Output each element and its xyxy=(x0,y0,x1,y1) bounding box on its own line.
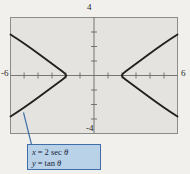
equation-line-y: y=tan θ xyxy=(32,158,97,169)
parametric-equations-callout: x=2 sec θ y=tan θ xyxy=(27,144,101,170)
equation-y-theta: θ xyxy=(57,158,61,168)
y-axis-min-label: -4 xyxy=(86,124,94,133)
equation-x-equals: = xyxy=(36,147,45,157)
x-axis-max-label: 6 xyxy=(181,69,186,78)
equation-y-function: tan xyxy=(45,158,55,168)
equation-x-coefficient: 2 xyxy=(45,147,49,157)
x-axis-min-label: -6 xyxy=(1,69,9,78)
equation-x-theta: θ xyxy=(64,147,68,157)
y-axis-max-label: 4 xyxy=(87,3,92,12)
equation-line-x: x=2 sec θ xyxy=(32,147,97,158)
equation-x-function: sec xyxy=(51,147,62,157)
equation-y-equals: = xyxy=(36,158,45,168)
